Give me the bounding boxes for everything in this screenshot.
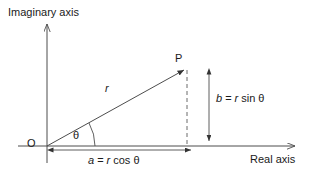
horizontal-component-equation: a=rcos θ	[88, 155, 140, 166]
imaginary-axis-label: Imaginary axis	[8, 7, 79, 18]
vertical-component-radius: r	[235, 92, 239, 104]
horizontal-dimension-left-arrowhead	[47, 148, 54, 153]
horizontal-component-equals: =	[97, 154, 103, 166]
vertical-dimension-top-arrowhead	[207, 68, 212, 75]
vertical-component-variable: b	[216, 92, 222, 104]
horizontal-component-radius: r	[107, 154, 111, 166]
vertical-component-equation: b=rsin θ	[216, 93, 264, 104]
angle-theta-label: θ	[73, 130, 79, 141]
radius-vector	[47, 70, 184, 146]
horizontal-component-function: cos θ	[113, 154, 139, 166]
vertical-component-equals: =	[225, 92, 231, 104]
diagram-canvas	[0, 0, 311, 173]
radius-label: r	[105, 83, 109, 94]
horizontal-component-variable: a	[88, 154, 94, 166]
point-p-label: P	[175, 53, 182, 64]
real-axis-label: Real axis	[250, 154, 295, 165]
angle-arc	[89, 123, 95, 146]
vertical-component-function: sin θ	[241, 92, 264, 104]
argand-diagram: Imaginary axis Real axis O P r θ a=rcos …	[0, 0, 311, 173]
origin-label: O	[27, 138, 36, 149]
